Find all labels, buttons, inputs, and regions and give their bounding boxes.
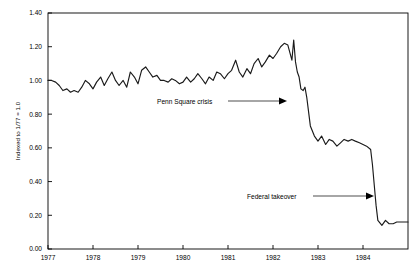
- plot-frame: [48, 13, 408, 249]
- x-tick-label: 1979: [131, 254, 146, 261]
- annotation-label: Federal takeover: [247, 193, 297, 200]
- series-line: [48, 40, 408, 225]
- y-tick-label: 1.00: [29, 77, 42, 84]
- x-tick-label: 1981: [221, 254, 236, 261]
- annotation-arrowhead-icon: [366, 192, 374, 199]
- y-tick-label: 1.40: [29, 9, 42, 16]
- x-tick-label: 1980: [176, 254, 191, 261]
- annotation-group: Penn Square crisisFederal takeover: [157, 97, 374, 200]
- y-tick-label: 1.20: [29, 43, 42, 50]
- y-axis: 0.000.200.400.600.801.001.201.40: [29, 9, 52, 252]
- x-tick-label: 1982: [266, 254, 281, 261]
- chart-container: 0.000.200.400.600.801.001.201.40 1977197…: [0, 0, 418, 276]
- x-tick-label: 1977: [41, 254, 56, 261]
- x-tick-label: 1983: [311, 254, 326, 261]
- annotation-label: Penn Square crisis: [157, 98, 213, 106]
- annotation-penn-square-crisis: Penn Square crisis: [157, 97, 287, 106]
- y-tick-label: 0.00: [29, 245, 42, 252]
- y-axis-title: Indexed to 1/77 = 1.0: [14, 101, 21, 160]
- annotation-federal-takeover: Federal takeover: [247, 192, 374, 200]
- plot-area-border: [48, 13, 408, 249]
- y-tick-label: 0.40: [29, 178, 42, 185]
- x-tick-label: 1978: [86, 254, 101, 261]
- annotation-arrowhead-icon: [279, 97, 287, 104]
- line-chart: 0.000.200.400.600.801.001.201.40 1977197…: [0, 0, 418, 276]
- x-axis: 19771978197919801981198219831984: [41, 245, 371, 261]
- data-series-group: [48, 40, 408, 225]
- y-tick-label: 0.60: [29, 144, 42, 151]
- y-tick-label: 0.80: [29, 111, 42, 118]
- y-tick-label: 0.20: [29, 212, 42, 219]
- x-tick-label: 1984: [356, 254, 371, 261]
